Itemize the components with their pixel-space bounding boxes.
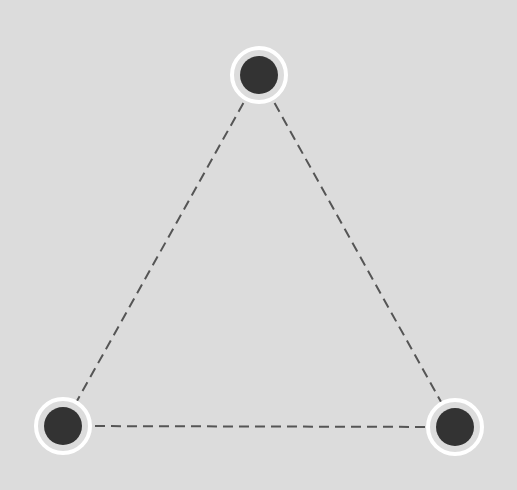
node-bottom-left[interactable] — [36, 399, 90, 453]
node-dot-bottom-right — [436, 408, 474, 446]
edge-top-bottom-left — [63, 75, 259, 426]
edges — [63, 75, 455, 427]
node-top[interactable] — [232, 48, 286, 102]
triangle-diagram — [0, 0, 517, 490]
node-dot-bottom-left — [44, 407, 82, 445]
node-dot-top — [240, 56, 278, 94]
node-bottom-right[interactable] — [428, 400, 482, 454]
diagram-canvas — [0, 0, 517, 490]
edge-bottom-left-bottom-right — [63, 426, 455, 427]
edge-top-bottom-right — [259, 75, 455, 427]
